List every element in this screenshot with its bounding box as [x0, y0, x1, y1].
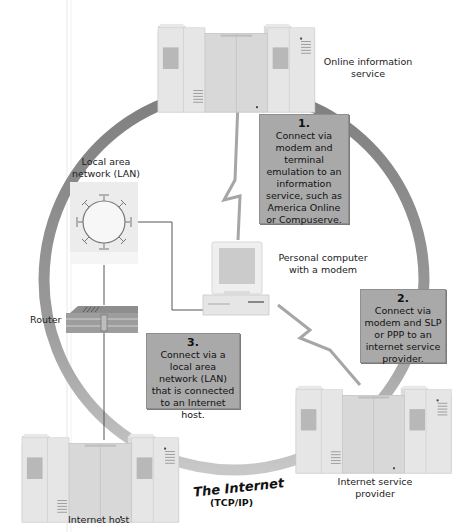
online-service-label-line1: Online information — [308, 56, 428, 68]
step-3-line: that is connected — [149, 385, 237, 397]
lightning-bolt-icon — [278, 305, 360, 385]
step-1-box: 1. Connect via modem and terminal emulat… — [259, 114, 349, 224]
internet-ring-sublabel: (TCP/IP) — [210, 497, 253, 508]
step-1-line: or Compuserve. — [262, 214, 346, 226]
internet-host-label: Internet host — [68, 514, 158, 526]
pc-label-line1: Personal computer — [268, 252, 378, 264]
lan-label-line1: Local area — [56, 156, 156, 168]
online-service-server-icon — [158, 24, 315, 112]
step-3-line: local area — [149, 361, 237, 373]
step-1-line: America Online — [262, 202, 346, 214]
step-3-box: 3. Connect via a local area network (LAN… — [146, 333, 240, 409]
online-service-label: Online information service — [308, 56, 428, 80]
online-service-label-line2: service — [308, 68, 428, 80]
step-1-line: information — [262, 178, 346, 190]
isp-label: Internet service provider — [320, 476, 430, 500]
isp-label-line1: Internet service — [320, 476, 430, 488]
step-3-line: to an Internet host. — [149, 397, 237, 421]
step-2-line: or PPP to an — [363, 329, 443, 341]
pc-label: Personal computer with a modem — [268, 252, 378, 276]
step-1-line: emulation to an — [262, 166, 346, 178]
router-icon — [66, 306, 138, 333]
isp-label-line2: provider — [320, 488, 430, 500]
step-1-line: terminal — [262, 154, 346, 166]
step-3-line: network (LAN) — [149, 373, 237, 385]
step-2-box: 2. Connect via modem and SLP or PPP to a… — [360, 289, 446, 363]
step-1-number: 1. — [262, 118, 346, 130]
step-2-line: internet service — [363, 341, 443, 353]
step-2-number: 2. — [363, 293, 443, 305]
lan-icon — [70, 182, 138, 264]
step-2-line: Connect via — [363, 305, 443, 317]
internet-host-server-icon — [22, 434, 179, 522]
lan-label: Local area network (LAN) — [56, 156, 156, 180]
isp-server-icon — [296, 386, 451, 473]
lightning-bolt-icon — [224, 102, 240, 240]
step-1-line: service, such as — [262, 190, 346, 202]
personal-computer-icon — [203, 242, 269, 315]
step-2-line: modem and SLP — [363, 317, 443, 329]
step-3-number: 3. — [149, 337, 237, 349]
step-2-line: provider. — [363, 353, 443, 365]
router-label: Router — [30, 314, 66, 326]
step-1-line: modem and — [262, 142, 346, 154]
step-1-line: Connect via — [262, 130, 346, 142]
lan-label-line2: network (LAN) — [56, 168, 156, 180]
pc-label-line2: with a modem — [268, 264, 378, 276]
step-3-line: Connect via a — [149, 349, 237, 361]
internet-connection-diagram: Online information service Local area ne… — [0, 0, 467, 532]
